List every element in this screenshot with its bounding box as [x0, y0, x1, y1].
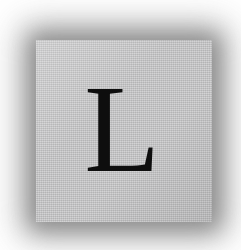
letter-glyph: L — [84, 68, 160, 192]
gray-letter-tile: L — [36, 40, 212, 222]
letter-tile-image: L — [0, 0, 241, 250]
